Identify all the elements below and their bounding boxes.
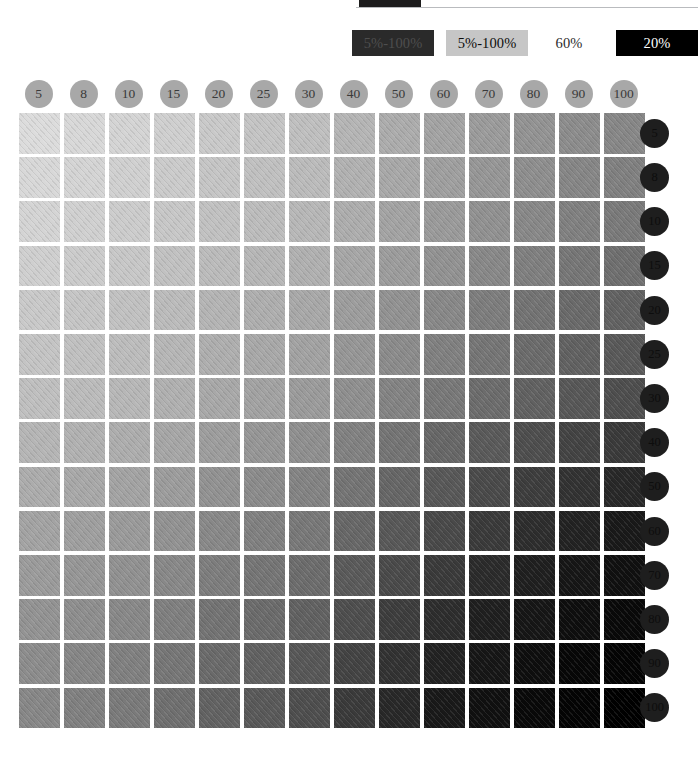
- tint-swatch: [604, 688, 645, 729]
- tint-swatch: [109, 422, 150, 463]
- tint-swatch: [514, 467, 555, 508]
- tint-swatch: [199, 643, 240, 684]
- column-header-8: 8: [70, 80, 98, 108]
- tint-swatch: [64, 511, 105, 552]
- tint-swatch: [379, 511, 420, 552]
- tint-swatch: [334, 643, 375, 684]
- tint-swatch: [199, 378, 240, 419]
- tint-swatch: [469, 555, 510, 596]
- row-header-70: 70: [640, 561, 669, 590]
- tint-swatch: [154, 157, 195, 198]
- tint-swatch: [64, 643, 105, 684]
- tint-swatch: [19, 688, 60, 729]
- tint-swatch: [244, 290, 285, 331]
- tint-swatch: [559, 511, 600, 552]
- tint-swatch: [469, 378, 510, 419]
- tint-swatch: [289, 157, 330, 198]
- tint-swatch: [604, 643, 645, 684]
- tint-swatch: [514, 201, 555, 242]
- tint-swatch: [154, 290, 195, 331]
- row-header-100: 100: [640, 693, 669, 722]
- column-header-100: 100: [610, 80, 638, 108]
- tint-swatch: [379, 467, 420, 508]
- column-header-20: 20: [205, 80, 233, 108]
- tint-swatch: [244, 643, 285, 684]
- tint-swatch: [424, 378, 465, 419]
- row-header-25: 25: [640, 340, 669, 369]
- tint-swatch: [424, 201, 465, 242]
- tint-swatch: [379, 290, 420, 331]
- tint-swatch: [199, 688, 240, 729]
- tint-swatch: [154, 113, 195, 154]
- tint-swatch: [469, 290, 510, 331]
- tint-swatch: [199, 422, 240, 463]
- tint-swatch: [379, 643, 420, 684]
- tint-swatch: [514, 378, 555, 419]
- tint-swatch: [514, 599, 555, 640]
- tint-swatch: [199, 555, 240, 596]
- tint-swatch: [604, 422, 645, 463]
- tint-swatch: [559, 555, 600, 596]
- row-header-60: 60: [640, 517, 669, 546]
- tint-swatch: [19, 378, 60, 419]
- tint-swatch: [559, 246, 600, 287]
- tint-swatch: [424, 688, 465, 729]
- tint-swatch: [379, 422, 420, 463]
- tint-swatch: [244, 378, 285, 419]
- tint-swatch: [604, 555, 645, 596]
- tint-swatch: [64, 334, 105, 375]
- column-header-60: 60: [430, 80, 458, 108]
- tint-swatch: [64, 201, 105, 242]
- tint-swatch: [154, 378, 195, 419]
- tint-swatch: [424, 113, 465, 154]
- tint-swatch: [469, 334, 510, 375]
- tint-swatch: [199, 334, 240, 375]
- tint-swatch: [64, 378, 105, 419]
- column-header-10: 10: [115, 80, 143, 108]
- tint-swatch: [289, 334, 330, 375]
- column-header-90: 90: [565, 80, 593, 108]
- tint-swatch: [604, 113, 645, 154]
- tint-swatch: [109, 378, 150, 419]
- tint-swatch: [64, 467, 105, 508]
- column-header-row: 581015202530405060708090100: [18, 80, 638, 108]
- tint-swatch: [469, 599, 510, 640]
- tint-swatch: [244, 157, 285, 198]
- tint-swatch: [334, 334, 375, 375]
- tint-swatch: [514, 422, 555, 463]
- tint-swatch: [289, 246, 330, 287]
- tint-swatch: [109, 157, 150, 198]
- column-header-25: 25: [250, 80, 278, 108]
- tint-swatch: [199, 290, 240, 331]
- column-header-80: 80: [520, 80, 548, 108]
- tint-swatch: [244, 201, 285, 242]
- tint-swatch: [289, 688, 330, 729]
- tint-swatch: [19, 555, 60, 596]
- tint-swatch: [19, 511, 60, 552]
- tint-swatch: [469, 157, 510, 198]
- tint-swatch: [244, 555, 285, 596]
- tint-swatch: [604, 290, 645, 331]
- tint-swatch: [559, 290, 600, 331]
- tint-swatch: [199, 201, 240, 242]
- tint-swatch: [424, 555, 465, 596]
- tint-swatch: [19, 113, 60, 154]
- column-header-50: 50: [385, 80, 413, 108]
- tint-swatch: [19, 422, 60, 463]
- tint-swatch: [469, 643, 510, 684]
- tint-swatch: [379, 334, 420, 375]
- tint-swatch: [514, 643, 555, 684]
- tint-swatch: [154, 511, 195, 552]
- tint-swatch: [289, 511, 330, 552]
- tint-swatch: [514, 290, 555, 331]
- tint-swatch: [559, 599, 600, 640]
- tint-swatch: [424, 157, 465, 198]
- tint-swatch: [334, 555, 375, 596]
- tint-swatch: [19, 334, 60, 375]
- row-header-10: 10: [640, 207, 669, 236]
- tint-swatch: [154, 688, 195, 729]
- tint-swatch: [514, 246, 555, 287]
- tint-swatch: [289, 643, 330, 684]
- tint-swatch: [334, 422, 375, 463]
- tint-swatch: [19, 201, 60, 242]
